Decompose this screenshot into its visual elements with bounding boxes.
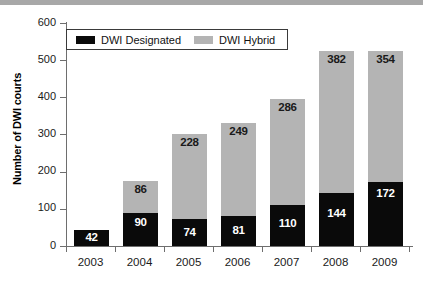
x-tick-mark-3 [213,246,214,252]
black-swatch-icon [76,36,95,44]
bar-segment-hybrid-2005[interactable]: 228 [172,134,207,219]
legend-item-designated[interactable]: DWI Designated [76,30,181,49]
chart-figure: Number of DWI courts 600 500 400 300 200… [0,0,423,289]
x-tick-label-2009: 2009 [355,256,415,268]
x-tick-mark-7 [409,246,410,252]
bar-value-designated-2006: 81 [221,224,256,236]
x-tick-mark-2 [164,246,165,252]
bar-value-designated-2007: 110 [270,217,305,229]
bar-segment-designated-2009[interactable]: 172 [368,182,403,246]
bar-segment-designated-2008[interactable]: 144 [319,193,354,247]
y-tick-label-300: 300 [14,127,56,139]
bar-group-2006[interactable]: 81 249 [221,123,256,246]
x-tick-mark-0 [66,246,67,252]
bar-group-2008[interactable]: 144 382 [319,51,354,247]
x-tick-mark-5 [311,246,312,252]
plot-area: 42 90 86 74 228 81 2 [66,23,413,246]
bar-segment-hybrid-2007[interactable]: 286 [270,99,305,205]
legend-item-hybrid[interactable]: DWI Hybrid [194,30,275,49]
bar-value-designated-2005: 74 [172,226,207,238]
bar-segment-hybrid-2006[interactable]: 249 [221,123,256,216]
y-tick-label-400: 400 [14,90,56,102]
bar-value-hybrid-2007: 286 [270,101,305,113]
y-tick-label-0: 0 [14,239,56,251]
bar-segment-designated-2004[interactable]: 90 [123,213,158,247]
y-tick-label-500: 500 [14,53,56,65]
bar-value-hybrid-2004: 86 [123,183,158,195]
y-tick-label-100: 100 [14,201,56,213]
bar-group-2005[interactable]: 74 228 [172,134,207,246]
bar-value-designated-2009: 172 [368,187,403,199]
bar-segment-designated-2003[interactable]: 42 [74,230,109,246]
bar-value-designated-2004: 90 [123,216,158,228]
bar-value-designated-2008: 144 [319,207,354,219]
bar-value-designated-2003: 42 [74,231,109,243]
bar-value-hybrid-2008: 382 [319,53,354,65]
bar-segment-designated-2005[interactable]: 74 [172,219,207,247]
x-tick-mark-6 [360,246,361,252]
bar-value-hybrid-2005: 228 [172,136,207,148]
y-tick-label-600: 600 [14,16,56,28]
bar-segment-hybrid-2009[interactable]: 354 [368,51,403,183]
legend-label-designated: DWI Designated [101,34,181,46]
bar-segment-designated-2006[interactable]: 81 [221,216,256,246]
legend-label-hybrid: DWI Hybrid [219,34,275,46]
x-tick-mark-4 [262,246,263,252]
bar-group-2009[interactable]: 172 354 [368,51,403,247]
gray-swatch-icon [194,36,213,44]
bar-segment-hybrid-2008[interactable]: 382 [319,51,354,193]
bar-group-2007[interactable]: 110 286 [270,99,305,246]
chart-legend: DWI Designated DWI Hybrid [66,29,288,50]
top-gray-band [0,0,423,5]
bar-group-2003[interactable]: 42 [74,230,109,246]
bar-value-hybrid-2006: 249 [221,125,256,137]
bar-value-hybrid-2009: 354 [368,53,403,65]
bar-segment-designated-2007[interactable]: 110 [270,205,305,246]
bar-group-2004[interactable]: 90 86 [123,181,158,246]
y-tick-label-200: 200 [14,164,56,176]
bar-segment-hybrid-2004[interactable]: 86 [123,181,158,213]
x-tick-mark-1 [115,246,116,252]
